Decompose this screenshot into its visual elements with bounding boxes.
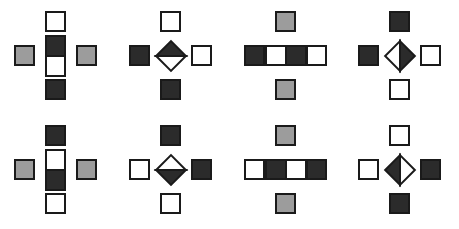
- satellite-square-bottom: [45, 79, 66, 100]
- satellite-square-bottom: [275, 193, 296, 214]
- satellite-square-right: [306, 45, 327, 66]
- satellite-square-right: [306, 159, 327, 180]
- satellite-square-left: [14, 159, 35, 180]
- center-diamond: [379, 35, 421, 77]
- center-diamond: [150, 35, 192, 77]
- satellite-square-top: [45, 11, 66, 32]
- figure-panel: [230, 0, 345, 114]
- center-half-right: [285, 47, 305, 64]
- center-split-rectangle: [45, 35, 66, 77]
- center-diamond: [150, 149, 192, 191]
- satellite-square-bottom: [160, 79, 181, 100]
- center-split-rectangle: [265, 45, 307, 66]
- satellite-square-left: [244, 159, 265, 180]
- satellite-square-top: [275, 125, 296, 146]
- center-half-bottom: [47, 169, 64, 189]
- satellite-square-bottom: [45, 193, 66, 214]
- satellite-square-top: [389, 11, 410, 32]
- satellite-square-top: [160, 125, 181, 146]
- satellite-square-top: [389, 125, 410, 146]
- figure-panel: [0, 114, 115, 228]
- satellite-square-right: [420, 45, 441, 66]
- figure-panel-grid: [0, 0, 459, 229]
- satellite-square-left: [244, 45, 265, 66]
- satellite-square-left: [358, 159, 379, 180]
- satellite-square-top: [160, 11, 181, 32]
- center-diamond: [379, 149, 421, 191]
- satellite-square-left: [14, 45, 35, 66]
- center-half-left: [267, 161, 285, 178]
- satellite-square-top: [45, 125, 66, 146]
- satellite-square-bottom: [389, 193, 410, 214]
- center-split-rectangle: [45, 149, 66, 191]
- figure-panel: [0, 0, 115, 114]
- satellite-square-right: [191, 45, 212, 66]
- satellite-square-bottom: [389, 79, 410, 100]
- satellite-square-right: [420, 159, 441, 180]
- figure-panel: [115, 0, 230, 114]
- satellite-square-right: [191, 159, 212, 180]
- center-half-bottom: [47, 55, 64, 75]
- satellite-square-bottom: [275, 79, 296, 100]
- center-half-right: [285, 161, 305, 178]
- satellite-square-right: [76, 159, 97, 180]
- figure-panel: [344, 114, 459, 228]
- satellite-square-right: [76, 45, 97, 66]
- satellite-square-left: [129, 45, 150, 66]
- satellite-square-left: [129, 159, 150, 180]
- satellite-square-top: [275, 11, 296, 32]
- center-half-top: [47, 151, 64, 169]
- figure-panel: [230, 114, 345, 228]
- figure-panel: [344, 0, 459, 114]
- satellite-square-bottom: [160, 193, 181, 214]
- center-half-top: [47, 37, 64, 55]
- center-half-left: [267, 47, 285, 64]
- center-split-rectangle: [265, 159, 307, 180]
- satellite-square-left: [358, 45, 379, 66]
- figure-panel: [115, 114, 230, 228]
